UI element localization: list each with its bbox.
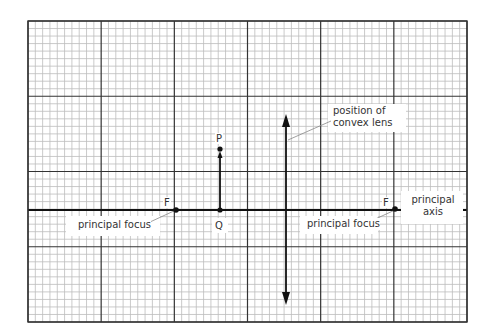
point-label-f-right: F: [382, 197, 390, 208]
focus-right-dot: [392, 206, 398, 212]
label-convex-lens: position of convex lens: [333, 105, 392, 129]
leader-lens: [288, 121, 331, 140]
label-axis-line2: axis: [405, 206, 461, 218]
label-lens-line1: position of: [333, 105, 392, 117]
point-label-f-left: F: [163, 197, 171, 208]
label-axis-line1: principal: [405, 194, 461, 206]
label-principal-axis: principal axis: [405, 194, 461, 218]
graph-paper-diagram: [0, 0, 495, 334]
focus-left-dot: [173, 207, 179, 213]
label-principal-focus-left: principal focus: [78, 219, 151, 231]
label-principal-focus-right: principal focus: [307, 218, 380, 230]
point-label-q: Q: [214, 220, 224, 231]
label-lens-line2: convex lens: [333, 117, 392, 129]
point-label-p: P: [215, 133, 223, 144]
